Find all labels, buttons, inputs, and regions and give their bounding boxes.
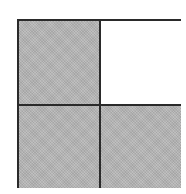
diagram-canvas — [0, 0, 186, 194]
fraction-grid — [17, 19, 181, 188]
cell-top-left-shaded — [19, 21, 100, 105]
cell-bottom-right-shaded — [100, 105, 181, 188]
cell-bottom-left-shaded — [19, 105, 100, 188]
cell-top-right-empty — [100, 21, 181, 105]
